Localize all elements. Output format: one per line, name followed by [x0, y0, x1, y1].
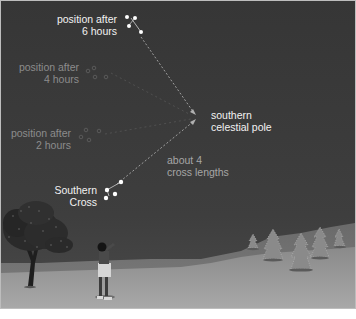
- label-position-2-hours: position after 2 hours: [1, 127, 71, 151]
- label-position-6-hours: position after 6 hours: [41, 13, 117, 37]
- caption-strip: [0, 309, 356, 319]
- label-position-4-hours: position after 4 hours: [7, 61, 79, 85]
- label-southern-cross: Southern Cross: [41, 184, 97, 208]
- diagram-frame: position after 6 hours position after 4 …: [0, 0, 356, 309]
- label-southern-celestial-pole: southern celestial pole: [211, 109, 272, 133]
- label-about-4-cross-lengths: about 4 cross lengths: [167, 154, 229, 178]
